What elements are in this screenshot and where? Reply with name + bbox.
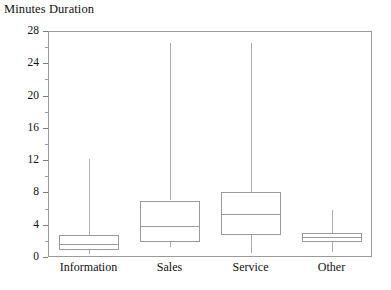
y-axis-tick-major: [43, 128, 48, 129]
plot-area: [48, 31, 372, 257]
box-plot-chart: Minutes Duration 0481216202428 Informati…: [0, 0, 391, 290]
y-axis-tick-major: [43, 192, 48, 193]
y-axis-tick-label: 28: [0, 25, 39, 37]
x-axis-tick-label: Information: [60, 260, 117, 275]
whisker-upper: [170, 43, 171, 200]
whisker-lower: [170, 242, 171, 247]
x-axis-tick-label: Other: [318, 260, 345, 275]
median-line: [59, 244, 119, 245]
y-axis-tick-minor: [45, 79, 48, 80]
y-axis-tick-major: [43, 63, 48, 64]
y-axis-tick-label: 8: [0, 186, 39, 198]
x-axis-tick-label: Service: [233, 260, 269, 275]
y-axis-tick-major: [43, 225, 48, 226]
whisker-upper: [332, 210, 333, 233]
whisker-lower: [251, 235, 252, 253]
y-axis-tick-minor: [45, 209, 48, 210]
y-axis-tick-label: 0: [0, 251, 39, 263]
box-iqr: [59, 235, 119, 250]
box-iqr: [140, 201, 200, 243]
y-axis-tick-label: 24: [0, 57, 39, 69]
y-axis-tick-label: 12: [0, 154, 39, 166]
whisker-upper: [251, 43, 252, 192]
y-axis-tick-major: [43, 257, 48, 258]
whisker-lower: [332, 242, 333, 252]
median-line: [140, 226, 200, 227]
median-line: [221, 214, 281, 215]
y-axis-tick-minor: [45, 176, 48, 177]
whisker-lower: [89, 250, 90, 254]
y-axis-tick-minor: [45, 144, 48, 145]
whisker-upper: [89, 159, 90, 235]
chart-title: Minutes Duration: [4, 2, 94, 17]
y-axis-tick-minor: [45, 241, 48, 242]
y-axis-tick-major: [43, 160, 48, 161]
y-axis-tick-minor: [45, 112, 48, 113]
y-axis-tick-label: 16: [0, 122, 39, 134]
y-axis-tick-major: [43, 31, 48, 32]
x-axis-tick-label: Sales: [157, 260, 182, 275]
y-axis-tick-label: 20: [0, 90, 39, 102]
y-axis-tick-minor: [45, 47, 48, 48]
y-axis-tick-major: [43, 96, 48, 97]
y-axis-tick-label: 4: [0, 219, 39, 231]
median-line: [302, 237, 362, 238]
